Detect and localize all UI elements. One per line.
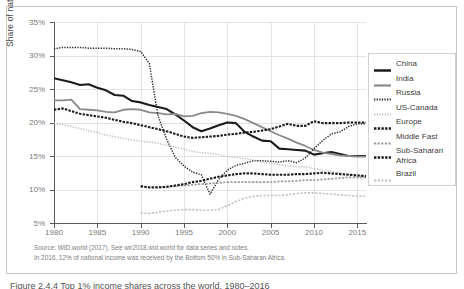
legend-label: Brazil (396, 169, 416, 179)
series-line-us-canada (54, 123, 366, 176)
x-tick-label: 1980 (34, 228, 74, 238)
legend-item-china[interactable]: China (374, 59, 451, 70)
legend-item-us-canada[interactable]: US-Canada (374, 103, 451, 114)
plot-wrapper: Share of national income (%) 5%10%15%20%… (7, 7, 458, 275)
series-line-russia (54, 47, 366, 194)
x-tick-label: 2005 (251, 228, 291, 238)
y-tick-label: 20% (11, 118, 45, 127)
legend-label: Russia (396, 88, 420, 98)
legend-item-middle-fast[interactable]: Middle Fast (374, 132, 451, 143)
note-source: Source: WID.world (2017). See wir2018.wi… (34, 243, 364, 253)
y-tick-label: 10% (11, 185, 45, 194)
series-line-brazil (141, 193, 366, 214)
legend-label: Europe (396, 117, 422, 127)
x-tick-label: 2000 (207, 228, 247, 238)
legend-item-europe[interactable]: Europe (374, 117, 451, 128)
legend-swatch-icon (374, 90, 391, 99)
legend-swatch-icon (374, 76, 391, 85)
legend-item-russia[interactable]: Russia (374, 88, 451, 99)
series-line-china (54, 78, 366, 156)
note-detail: In 2016, 12% of national income was rece… (34, 253, 364, 263)
legend-item-india[interactable]: India (374, 74, 451, 85)
series-line-europe (54, 108, 366, 137)
legend-swatch-icon (374, 171, 391, 180)
legend-swatch-icon (374, 134, 391, 143)
legend-swatch-icon (374, 61, 391, 70)
y-tick-label: 35% (11, 18, 45, 27)
legend-item-brazil[interactable]: Brazil (374, 169, 451, 180)
x-tick-label: 1995 (164, 228, 204, 238)
figure-container: Share of national income (%) 5%10%15%20%… (0, 0, 464, 289)
legend-label: China (396, 59, 417, 69)
x-axis-line (54, 223, 367, 224)
legend-label: India (396, 74, 413, 84)
legend-swatch-icon (374, 148, 391, 157)
series-line-sub-saharan-africa (141, 173, 366, 188)
legend-label: Middle Fast (396, 132, 437, 142)
chart-legend: ChinaIndiaRussiaUS-CanadaEuropeMiddle Fa… (368, 53, 456, 186)
x-tick-label: 1990 (121, 228, 161, 238)
legend-item-sub-saharan-africa[interactable]: Sub-Saharan Africa (374, 146, 451, 165)
y-tick-label: 25% (11, 85, 45, 94)
series-layer (54, 22, 366, 223)
chart-frame: Share of national income (%) 5%10%15%20%… (6, 6, 457, 274)
y-tick-label: 30% (11, 51, 45, 60)
y-tick-label: 5% (11, 219, 45, 228)
legend-label: Sub-Saharan Africa (396, 146, 451, 165)
figure-caption: Figure 2.4.4 Top 1% income shares across… (10, 281, 454, 289)
x-tick-label: 2015 (337, 228, 377, 238)
legend-swatch-icon (374, 119, 391, 128)
x-tick-label: 1985 (77, 228, 117, 238)
legend-swatch-icon (374, 105, 391, 114)
chart-notes: Source: WID.world (2017). See wir2018.wi… (34, 243, 364, 262)
legend-label: US-Canada (396, 103, 438, 113)
x-tick-label: 2010 (294, 228, 334, 238)
y-tick-label: 15% (11, 152, 45, 161)
